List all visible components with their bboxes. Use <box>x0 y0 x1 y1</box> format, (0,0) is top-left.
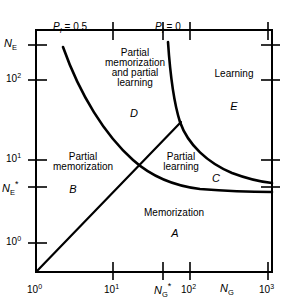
y-tick-ne-star: NE* <box>2 180 18 196</box>
curve-label-pi-0: PI = 0 <box>155 22 181 35</box>
plot-svg <box>0 0 297 302</box>
region-a-name: Memorization <box>132 208 216 218</box>
region-b-line2: memorization <box>42 162 124 172</box>
region-b-letter: B <box>63 184 83 195</box>
region-e-letter: E <box>224 101 244 112</box>
region-c-name: Partial learning <box>150 152 212 172</box>
curve-label-pi-0p5: PI = 0.5 <box>53 22 87 35</box>
y-axis-ticks-left <box>36 45 47 243</box>
region-a-letter: A <box>165 228 185 239</box>
diagonal-boundary <box>37 122 181 271</box>
y-axis-ticks-right <box>261 45 280 187</box>
region-c-letter: C <box>206 173 226 184</box>
region-e-name: Learning <box>203 69 265 79</box>
x-tick-1e0: 100 <box>27 283 42 295</box>
region-e-line1: Learning <box>203 69 265 79</box>
region-d-line4: learning <box>96 78 174 88</box>
region-c-line2: learning <box>150 162 212 172</box>
figure-container: NE 102 101 NE* 100 100 101 NG* 102 NG 10… <box>0 0 297 302</box>
region-d-letter: D <box>124 108 144 119</box>
y-axis-ticks-outer <box>28 45 36 243</box>
x-tick-1e2: 102 <box>181 283 196 295</box>
y-tick-1e2: 102 <box>6 72 21 84</box>
y-axis-label-ne: NE <box>4 38 17 52</box>
region-d-name: Partial memorization and partial learnin… <box>96 48 174 88</box>
x-tick-1e3: 103 <box>259 283 274 295</box>
y-tick-1e1: 101 <box>6 152 21 164</box>
x-axis-label-ng: NG <box>220 283 234 297</box>
x-tick-ng-star: NG* <box>154 282 171 298</box>
region-a-line1: Memorization <box>132 208 216 218</box>
region-b-name: Partial memorization <box>42 152 124 172</box>
x-tick-1e1: 101 <box>104 283 119 295</box>
y-tick-1e0: 100 <box>6 235 21 247</box>
